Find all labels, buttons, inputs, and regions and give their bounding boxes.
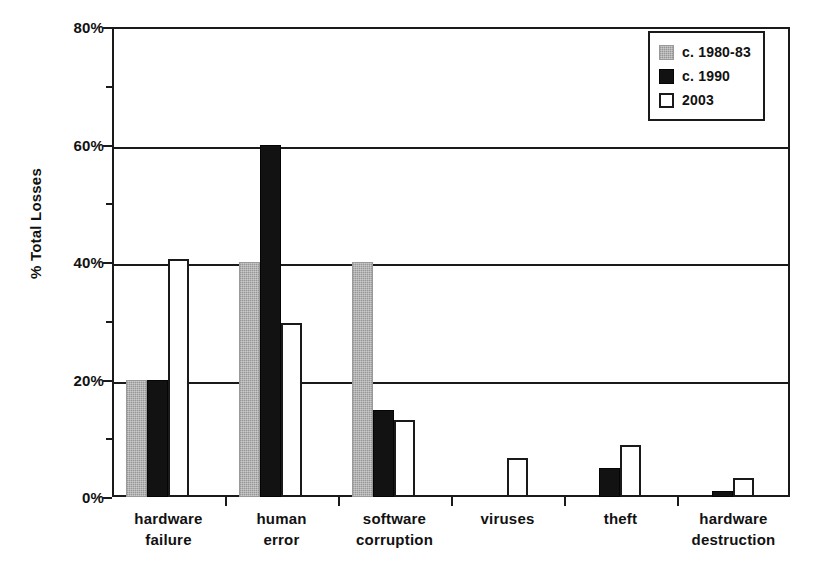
x-axis-category-label: theft (564, 508, 677, 529)
bar (733, 478, 754, 497)
x-axis-category-labels: hardwarefailurehumanerrorsoftwarecorrupt… (112, 508, 790, 570)
legend-label-2003: 2003 (682, 92, 714, 108)
x-axis-separator-tick (677, 497, 679, 506)
legend-label-1990: c. 1990 (682, 68, 730, 84)
bar (394, 420, 415, 497)
y-axis-major-tick (103, 380, 112, 382)
x-axis-category-label-line: viruses (451, 508, 564, 529)
legend-swatch-icon-1980 (659, 45, 674, 60)
legend-swatch-icon-2003 (659, 93, 674, 108)
x-axis-category-label: hardwaredestruction (677, 508, 790, 550)
y-axis-tick-label: 0% (52, 489, 104, 506)
x-axis-category-label: viruses (451, 508, 564, 529)
legend-item-1980: c. 1980-83 (659, 40, 751, 64)
x-axis-category-label-line: human (225, 508, 338, 529)
x-axis-category-label-line: failure (112, 529, 225, 550)
bar (352, 262, 373, 497)
x-axis-separator-tick (451, 497, 453, 506)
x-axis-category-label-line: hardware (677, 508, 790, 529)
bar (126, 380, 147, 498)
bar (620, 445, 641, 497)
x-axis-category-label: hardwarefailure (112, 508, 225, 550)
x-axis-category-label: softwarecorruption (338, 508, 451, 550)
bar (260, 145, 281, 498)
bar (599, 468, 620, 497)
bar (168, 259, 189, 497)
bar (712, 491, 733, 497)
x-axis-category-label-line: software (338, 508, 451, 529)
x-axis-category-label: humanerror (225, 508, 338, 550)
x-axis-category-label-line: hardware (112, 508, 225, 529)
bar-chart: % Total Losses 0%20%40%60%80% hardwarefa… (0, 0, 818, 580)
y-axis-major-tick (103, 497, 112, 499)
y-axis-major-tick (103, 27, 112, 29)
bar (373, 410, 394, 497)
x-axis-category-label-line: error (225, 529, 338, 550)
y-axis-tick-label: 40% (52, 254, 104, 271)
y-axis-tick-label: 80% (52, 19, 104, 36)
legend-item-2003: 2003 (659, 88, 751, 112)
y-axis-title: % Total Losses (27, 134, 44, 314)
y-axis-tick-label: 60% (52, 136, 104, 153)
x-axis-category-label-line: theft (564, 508, 677, 529)
x-axis-separator-tick (338, 497, 340, 506)
y-axis-tick-label: 20% (52, 371, 104, 388)
legend-label-1980: c. 1980-83 (682, 44, 751, 60)
bar (281, 323, 302, 497)
legend-swatch-icon-1990 (659, 69, 674, 84)
x-axis-category-label-line: destruction (677, 529, 790, 550)
y-axis-tick-labels: 0%20%40%60%80% (52, 0, 104, 580)
legend-item-1990: c. 1990 (659, 64, 751, 88)
bar (239, 262, 260, 497)
bar (147, 380, 168, 498)
legend: c. 1980-83 c. 1990 2003 (648, 31, 765, 121)
x-axis-category-label-line: corruption (338, 529, 451, 550)
x-axis-separator-tick (564, 497, 566, 506)
y-axis-major-tick (103, 262, 112, 264)
y-axis-major-tick (103, 145, 112, 147)
x-axis-separator-tick (225, 497, 227, 506)
bar (507, 458, 528, 497)
